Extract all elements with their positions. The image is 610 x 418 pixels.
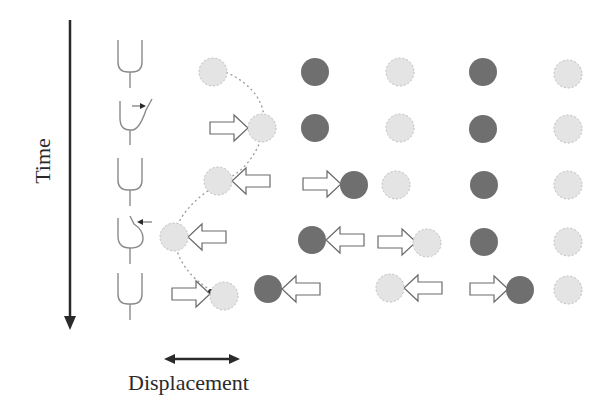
time-axis-label: Time bbox=[30, 126, 56, 196]
time-axis-arrow-icon bbox=[64, 20, 76, 330]
light-particle-icon bbox=[386, 114, 414, 142]
dark-particle-icon bbox=[301, 114, 329, 142]
arrow-left-icon bbox=[404, 275, 442, 301]
hair-cells bbox=[118, 40, 152, 320]
dark-particle-icon bbox=[470, 171, 498, 199]
light-particle-icon bbox=[248, 114, 276, 142]
light-particle-icon bbox=[204, 167, 232, 195]
dark-particle-icon bbox=[340, 171, 368, 199]
arrow-right-icon bbox=[172, 281, 210, 307]
displacement-double-arrow-icon bbox=[164, 354, 240, 364]
light-particle-icon bbox=[199, 58, 227, 86]
light-particle-icon bbox=[554, 228, 582, 256]
light-particle-icon bbox=[554, 276, 582, 304]
light-particle-icon bbox=[210, 282, 238, 310]
light-particle-icon bbox=[376, 274, 404, 302]
hair-cell-rest-icon bbox=[118, 273, 142, 320]
light-particle-icon bbox=[160, 223, 188, 251]
arrow-left-icon bbox=[282, 276, 320, 302]
arrow-right-icon bbox=[378, 229, 416, 255]
hair-cell-bent-left-icon bbox=[118, 216, 152, 264]
arrow-right-icon bbox=[303, 171, 341, 197]
light-particle-icon bbox=[554, 60, 582, 88]
light-particle-icon bbox=[386, 58, 414, 86]
arrow-left-icon bbox=[326, 227, 364, 253]
light-particle-icon bbox=[382, 171, 410, 199]
dark-particle-icon bbox=[470, 228, 498, 256]
dark-particle-icon bbox=[469, 58, 497, 86]
light-particle-icon bbox=[554, 115, 582, 143]
hair-cell-rest-icon bbox=[118, 158, 142, 206]
arrow-right-icon bbox=[210, 115, 248, 141]
arrow-left-icon bbox=[188, 224, 226, 250]
air-particles bbox=[160, 58, 582, 310]
diagram-canvas bbox=[0, 0, 610, 418]
hair-cell-bent-right-icon bbox=[120, 99, 152, 145]
light-particle-icon bbox=[554, 171, 582, 199]
hair-cell-rest-icon bbox=[118, 40, 142, 88]
dark-particle-icon bbox=[254, 275, 282, 303]
displacement-axis-label: Displacement bbox=[128, 370, 249, 396]
light-particle-icon bbox=[413, 229, 441, 257]
dark-particle-icon bbox=[506, 276, 534, 304]
dark-particle-icon bbox=[301, 58, 329, 86]
sound-wave-diagram: Time Displacement bbox=[0, 0, 610, 418]
dark-particle-icon bbox=[298, 226, 326, 254]
arrow-right-icon bbox=[470, 276, 508, 302]
displacement-arrows bbox=[172, 115, 508, 307]
dark-particle-icon bbox=[469, 115, 497, 143]
